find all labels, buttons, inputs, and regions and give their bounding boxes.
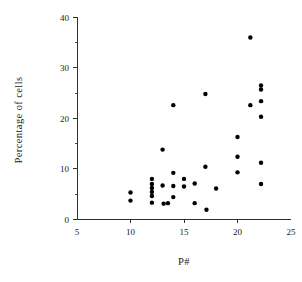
data-point — [171, 103, 175, 107]
y-tick-label: 40 — [60, 13, 70, 23]
data-point — [150, 186, 154, 190]
data-point — [150, 194, 154, 198]
data-point — [128, 198, 132, 202]
y-axis-label: Percentage of cells — [13, 77, 24, 164]
data-point — [248, 103, 252, 107]
data-point — [259, 83, 263, 87]
data-point — [150, 200, 154, 204]
y-tick-label: 30 — [60, 63, 70, 73]
plot-canvas: 010203040 510152025 P# Percentage of cel… — [0, 0, 302, 282]
data-point — [203, 165, 207, 169]
data-point — [161, 201, 165, 205]
y-tick-label: 20 — [60, 114, 70, 124]
data-point — [150, 190, 154, 194]
data-point — [160, 183, 164, 187]
data-points-layer — [128, 35, 263, 212]
y-tick-label: 0 — [65, 215, 70, 225]
data-point — [235, 170, 239, 174]
y-axis-ticks: 010203040 — [60, 13, 77, 225]
y-tick-label: 10 — [60, 164, 70, 174]
data-point — [150, 182, 154, 186]
scatter-plot-figure: 010203040 510152025 P# Percentage of cel… — [0, 0, 302, 282]
data-point — [182, 177, 186, 181]
x-tick-label: 15 — [180, 227, 190, 237]
data-point — [193, 201, 197, 205]
data-point — [203, 92, 207, 96]
data-point — [204, 208, 208, 212]
data-point — [166, 201, 170, 205]
data-point — [150, 177, 154, 181]
x-tick-label: 20 — [233, 227, 243, 237]
data-point — [259, 161, 263, 165]
x-tick-label: 5 — [75, 227, 80, 237]
data-point — [259, 182, 263, 186]
data-point — [235, 154, 239, 158]
x-axis-label: P# — [178, 256, 190, 267]
data-point — [160, 147, 164, 151]
data-point — [171, 184, 175, 188]
data-point — [171, 171, 175, 175]
x-tick-label: 25 — [287, 227, 297, 237]
x-tick-label: 10 — [126, 227, 136, 237]
data-point — [259, 87, 263, 91]
data-point — [182, 184, 186, 188]
data-point — [259, 99, 263, 103]
data-point — [128, 190, 132, 194]
data-point — [214, 186, 218, 190]
x-axis-ticks: 510152025 — [75, 219, 296, 237]
data-point — [235, 135, 239, 139]
data-point — [248, 35, 252, 39]
data-point — [193, 181, 197, 185]
data-point — [259, 115, 263, 119]
data-point — [171, 195, 175, 199]
